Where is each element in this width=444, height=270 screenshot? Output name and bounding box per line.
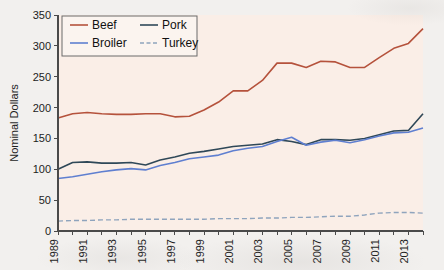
x-tick-group: [58, 231, 423, 235]
line-chart: 050100150200250300350 198919911993199519…: [0, 0, 444, 270]
x-tick-label: 1993: [106, 239, 118, 263]
x-tick-label: 1997: [165, 239, 177, 263]
y-tick-labels: 050100150200250300350: [33, 9, 51, 237]
x-tick-labels: 1989199119931995199719992001200320052007…: [48, 239, 410, 263]
y-tick-label: 100: [33, 163, 51, 175]
x-tick-label: 1999: [194, 239, 206, 263]
x-tick-label: 2001: [223, 239, 235, 263]
y-tick-label: 250: [33, 71, 51, 83]
y-tick-label: 300: [33, 40, 51, 52]
y-tick-label: 350: [33, 9, 51, 21]
x-tick-label: 2011: [369, 239, 381, 263]
x-tick-label: 2013: [398, 239, 410, 263]
x-tick-label: 1989: [48, 239, 60, 263]
y-axis-title: Nominal Dollars: [8, 84, 20, 162]
x-tick-label: 1991: [77, 239, 89, 263]
x-tick-label: 2007: [311, 239, 323, 263]
y-tick-label: 150: [33, 132, 51, 144]
y-tick-group: [54, 15, 58, 231]
chart-figure: 050100150200250300350 198919911993199519…: [0, 0, 444, 270]
legend-label-pork: Pork: [162, 18, 188, 32]
x-tick-label: 2003: [252, 239, 264, 263]
y-tick-label: 50: [39, 194, 51, 206]
legend-label-turkey: Turkey: [162, 36, 198, 50]
x-tick-label: 2009: [340, 239, 352, 263]
x-tick-label: 2005: [282, 239, 294, 263]
y-tick-label: 200: [33, 102, 51, 114]
legend-label-beef: Beef: [92, 18, 117, 32]
x-tick-label: 1995: [136, 239, 148, 263]
legend-label-broiler: Broiler: [92, 36, 127, 50]
chart-legend: BeefPorkBroilerTurkey: [62, 16, 198, 56]
y-tick-label: 0: [45, 225, 51, 237]
